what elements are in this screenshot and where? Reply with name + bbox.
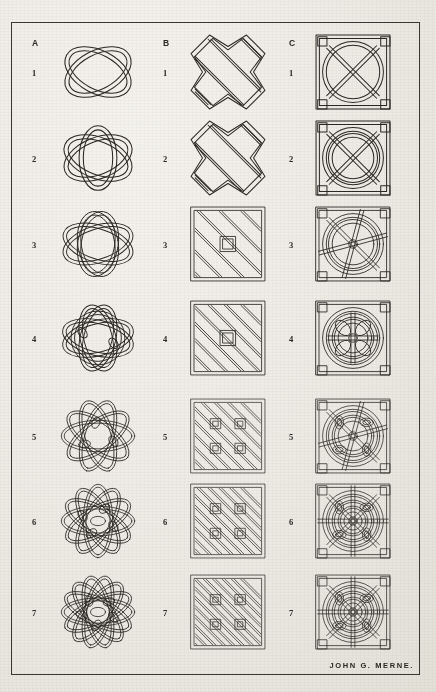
knot-c3 — [301, 202, 405, 286]
knot-c6 — [301, 479, 405, 563]
row-label-a2: 2 — [32, 154, 37, 164]
knot-b3 — [176, 202, 280, 286]
column-header-c: C — [289, 38, 296, 48]
knot-a2 — [46, 116, 150, 200]
row-label-b2: 2 — [163, 154, 168, 164]
row-label-c7: 7 — [289, 608, 294, 618]
knot-a3 — [46, 202, 150, 286]
column-header-a: A — [32, 38, 39, 48]
row-label-c1: 1 — [289, 68, 294, 78]
row-label-b7: 7 — [163, 608, 168, 618]
knot-b2 — [176, 116, 280, 200]
knot-b6 — [176, 479, 280, 563]
knot-c2-figure — [301, 116, 405, 200]
row-label-b6: 6 — [163, 517, 168, 527]
knot-a5-figure — [46, 394, 150, 478]
knot-c3-figure — [301, 202, 405, 286]
artist-signature: JOHN G. MERNE. — [330, 661, 415, 670]
knot-b5 — [176, 394, 280, 478]
knot-a1-figure — [46, 30, 150, 114]
knot-a1 — [46, 30, 150, 114]
knot-b2-figure — [176, 116, 280, 200]
knot-a6-figure — [46, 479, 150, 563]
row-label-c6: 6 — [289, 517, 294, 527]
row-label-c2: 2 — [289, 154, 294, 164]
knot-a2-figure — [46, 116, 150, 200]
knot-b7 — [176, 570, 280, 654]
row-label-a7: 7 — [32, 608, 37, 618]
knot-a7 — [46, 570, 150, 654]
row-label-b1: 1 — [163, 68, 168, 78]
row-label-a4: 4 — [32, 334, 37, 344]
knot-c2 — [301, 116, 405, 200]
knot-a7-figure — [46, 570, 150, 654]
row-label-a6: 6 — [32, 517, 37, 527]
knot-c5 — [301, 394, 405, 478]
knot-b1 — [176, 30, 280, 114]
knot-b6-figure — [176, 479, 280, 563]
knot-a3-figure — [46, 202, 150, 286]
row-label-b5: 5 — [163, 432, 168, 442]
knot-c7 — [301, 570, 405, 654]
column-header-b: B — [163, 38, 170, 48]
knot-c4 — [301, 296, 405, 380]
knot-a6 — [46, 479, 150, 563]
row-label-b3: 3 — [163, 240, 168, 250]
knot-b4 — [176, 296, 280, 380]
row-label-c4: 4 — [289, 334, 294, 344]
row-label-a5: 5 — [32, 432, 37, 442]
knot-c6-figure — [301, 479, 405, 563]
knot-b4-figure — [176, 296, 280, 380]
knot-b3-figure — [176, 202, 280, 286]
row-label-a3: 3 — [32, 240, 37, 250]
knot-a5 — [46, 394, 150, 478]
knot-c7-figure — [301, 570, 405, 654]
knot-grid: ABC123456712345671234567 — [0, 0, 436, 692]
knot-c4-figure — [301, 296, 405, 380]
row-label-c5: 5 — [289, 432, 294, 442]
plate-page: ABC123456712345671234567 JOHN G. MERNE. — [0, 0, 436, 692]
knot-a4-figure — [46, 296, 150, 380]
knot-a4 — [46, 296, 150, 380]
knot-b7-figure — [176, 570, 280, 654]
knot-c1-figure — [301, 30, 405, 114]
knot-c1 — [301, 30, 405, 114]
row-label-c3: 3 — [289, 240, 294, 250]
knot-b5-figure — [176, 394, 280, 478]
row-label-b4: 4 — [163, 334, 168, 344]
row-label-a1: 1 — [32, 68, 37, 78]
knot-c5-figure — [301, 394, 405, 478]
knot-b1-figure — [176, 30, 280, 114]
